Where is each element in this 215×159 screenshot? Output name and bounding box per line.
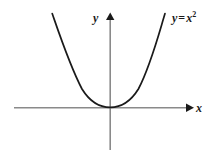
x-axis-arrow-icon (186, 104, 194, 112)
equation-operator: = (177, 11, 186, 25)
equation-exponent: 2 (192, 10, 196, 19)
y-axis-label: y (93, 12, 98, 24)
y-axis-arrow-icon (106, 13, 114, 21)
parabola-curve (52, 14, 165, 108)
parabola-figure: y x y=x2 (0, 0, 215, 159)
curve-equation-label: y=x2 (172, 11, 196, 24)
x-axis-label: x (196, 102, 202, 114)
